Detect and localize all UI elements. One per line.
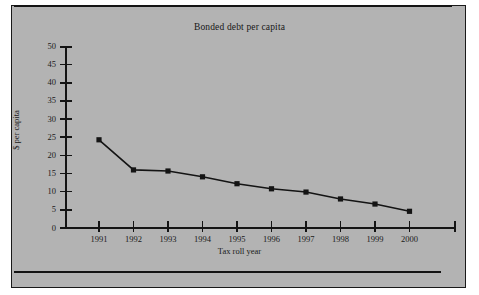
data-point-marker (407, 209, 412, 214)
data-point-marker (200, 174, 205, 179)
series-line-path (99, 140, 410, 212)
data-point-marker (372, 201, 377, 206)
data-point-marker (96, 137, 101, 142)
y-axis-title: $ per capita (11, 97, 21, 163)
data-point-marker (165, 168, 170, 173)
data-point-marker (131, 167, 136, 172)
line-chart: 05101520253035404550 1991199219931994199… (0, 0, 479, 295)
data-point-marker (338, 196, 343, 201)
data-point-marker (234, 181, 239, 186)
x-axis-title: Tax roll year (0, 246, 479, 256)
page-root: Bonded debt per capita 05101520253035404… (0, 0, 479, 295)
data-point-marker (303, 189, 308, 194)
data-point-marker (269, 186, 274, 191)
